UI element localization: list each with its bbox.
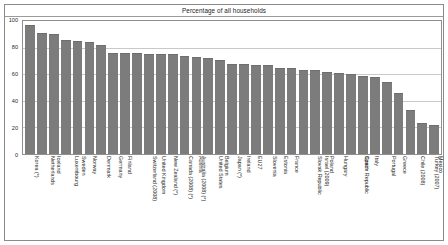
bar	[275, 68, 285, 154]
bar	[429, 125, 439, 154]
x-tick-cell: Israel (2009)	[311, 156, 321, 238]
x-tick-cell: United Kingdom	[143, 156, 153, 238]
x-tick-cell: Turkey (2007)	[418, 156, 428, 238]
x-tick-label: Spain	[364, 156, 370, 170]
x-tick-cell: Luxembourg	[60, 156, 70, 238]
bar	[322, 72, 332, 154]
bar	[382, 82, 392, 154]
x-tick-cell: United States	[203, 156, 213, 238]
x-tick-label: EU27	[257, 156, 263, 170]
x-tick-label: Italy	[374, 156, 380, 166]
x-tick-cell: Canada (2008) (*)	[167, 156, 177, 238]
x-tick-cell: Chile (2008)	[406, 156, 416, 238]
x-tick-cell: Austria	[191, 156, 201, 238]
x-tick-cell: Greece	[394, 156, 404, 238]
plot-wrapper	[22, 20, 442, 155]
chart-title-band: Percentage of all households	[5, 5, 443, 17]
bar	[96, 45, 106, 154]
x-tick-cell: Mexico	[430, 156, 440, 238]
bar	[346, 74, 356, 154]
x-tick-cell: Sweden	[72, 156, 82, 238]
bar	[370, 77, 380, 154]
bar	[239, 64, 249, 154]
y-tick-label: 20	[12, 125, 18, 131]
x-tick-cell: Ireland	[239, 156, 249, 238]
x-tick-cell: Portugal	[382, 156, 392, 238]
x-tick-cell: New Zealand (*)	[155, 156, 165, 238]
x-tick-cell: Germany	[108, 156, 118, 238]
bar	[251, 65, 261, 154]
x-tick-cell: Hungary	[334, 156, 344, 238]
bar	[310, 70, 320, 154]
bar	[227, 64, 237, 154]
bar	[61, 40, 71, 154]
x-tick-cell: Estonia	[275, 156, 285, 238]
y-axis-labels: 020406080100	[0, 20, 20, 155]
bar	[49, 34, 59, 154]
bar	[25, 25, 35, 154]
x-tick-cell: Spain	[358, 156, 368, 238]
x-tick-cell: Belgium	[215, 156, 225, 238]
x-tick-cell: Finland	[120, 156, 130, 238]
bar	[180, 56, 190, 154]
bar	[144, 54, 154, 154]
plot-area	[22, 20, 442, 155]
bar	[358, 76, 368, 154]
bar	[73, 41, 83, 154]
x-tick-cell: Slovenia	[263, 156, 273, 238]
x-tick-cell: Netherlands	[36, 156, 46, 238]
bar	[203, 58, 213, 154]
bar	[287, 68, 297, 154]
x-tick-cell: Denmark	[96, 156, 106, 238]
chart-title: Percentage of all households	[182, 7, 266, 14]
x-tick-cell: Japan (*)	[227, 156, 237, 238]
x-tick-cell: Korea (*)	[24, 156, 34, 238]
x-axis-labels: Korea (*)NetherlandsIcelandLuxembourgSwe…	[22, 156, 442, 238]
bar	[263, 65, 273, 154]
bar	[37, 33, 47, 154]
x-tick-cell: France	[287, 156, 297, 238]
y-tick-label: 60	[12, 71, 18, 77]
y-tick-label: 40	[12, 98, 18, 104]
x-tick-label: Mexico	[437, 156, 443, 173]
bar	[334, 73, 344, 154]
bar	[168, 54, 178, 154]
bar	[215, 60, 225, 154]
x-tick-cell: Norway	[84, 156, 94, 238]
bar	[85, 42, 95, 154]
x-tick-cell: Italy	[370, 156, 380, 238]
x-tick-cell: EU27	[251, 156, 261, 238]
x-tick-cell: Poland	[322, 156, 332, 238]
bar	[406, 110, 416, 154]
y-tick-label: 100	[9, 17, 18, 23]
x-tick-cell: Iceland	[48, 156, 58, 238]
bar	[192, 57, 202, 154]
y-tick-label: 0	[15, 152, 18, 158]
y-tick-label: 80	[12, 44, 18, 50]
figure-root: Percentage of all households 02040608010…	[0, 0, 448, 245]
bar	[417, 123, 427, 154]
bar	[299, 70, 309, 154]
x-tick-cell: Switzerland (2008)	[131, 156, 141, 238]
bar-series	[23, 21, 441, 154]
x-tick-cell: Slovak Republic	[299, 156, 309, 238]
bar	[132, 53, 142, 154]
bar	[108, 53, 118, 154]
bar	[394, 93, 404, 154]
bar	[156, 54, 166, 154]
x-tick-cell: Czech Republic	[346, 156, 356, 238]
bar	[120, 53, 130, 154]
x-tick-cell: Australia (2008) (*)	[179, 156, 189, 238]
